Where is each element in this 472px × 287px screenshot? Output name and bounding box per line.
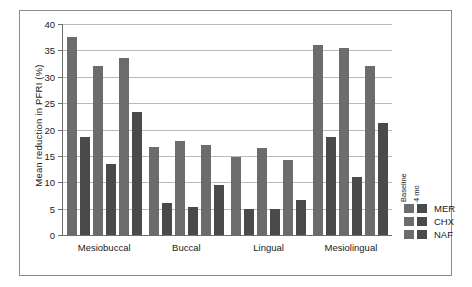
bar bbox=[67, 37, 77, 235]
y-tick-mark bbox=[58, 235, 63, 236]
x-axis-category-label: Mesiolingual bbox=[324, 242, 377, 253]
bar bbox=[93, 66, 103, 235]
plot-area: 0510152025303540MesiobuccalBuccalLingual… bbox=[62, 24, 392, 236]
bar-group: Mesiolingual bbox=[310, 24, 392, 235]
y-tick-label: 35 bbox=[44, 45, 55, 56]
legend-column-headers: Baseline 4 mo bbox=[404, 160, 466, 202]
bar bbox=[326, 137, 336, 235]
legend-swatch-baseline bbox=[404, 204, 414, 213]
legend-swatch-four-mo bbox=[417, 217, 427, 226]
y-tick-label: 10 bbox=[44, 177, 55, 188]
bar bbox=[175, 141, 185, 235]
bar-group: Mesiobuccal bbox=[63, 24, 145, 235]
legend-swatch-four-mo bbox=[417, 230, 427, 239]
bar bbox=[201, 145, 211, 235]
bar bbox=[257, 148, 267, 235]
bar bbox=[244, 209, 254, 235]
legend-label: NAF bbox=[434, 229, 453, 240]
x-axis-category-label: Buccal bbox=[172, 242, 201, 253]
y-tick-label: 30 bbox=[44, 71, 55, 82]
bar bbox=[149, 147, 159, 235]
bar bbox=[378, 123, 388, 235]
bar bbox=[231, 157, 241, 235]
bar bbox=[313, 45, 323, 235]
y-axis-title: Mean reduction in PFRI (%) bbox=[33, 26, 44, 226]
bar bbox=[214, 185, 224, 235]
bar bbox=[283, 160, 293, 235]
bar bbox=[188, 207, 198, 235]
y-tick-label: 25 bbox=[44, 98, 55, 109]
bar-group: Buccal bbox=[145, 24, 227, 235]
x-axis-category-label: Lingual bbox=[253, 242, 284, 253]
bar bbox=[352, 177, 362, 235]
bar bbox=[119, 58, 129, 235]
bar bbox=[339, 48, 349, 235]
bar bbox=[106, 164, 116, 235]
bar bbox=[296, 200, 306, 235]
y-tick-label: 40 bbox=[44, 19, 55, 30]
y-tick-label: 15 bbox=[44, 150, 55, 161]
legend-header-baseline: Baseline bbox=[399, 173, 408, 202]
bar bbox=[365, 66, 375, 235]
bar bbox=[162, 203, 172, 235]
legend-header-four-mo: 4 mo bbox=[412, 185, 421, 202]
y-tick-label: 5 bbox=[50, 203, 55, 214]
bar bbox=[270, 209, 280, 235]
legend-rows: MERCHXNAF bbox=[404, 202, 466, 241]
bar bbox=[132, 112, 142, 235]
x-axis-category-label: Mesiobuccal bbox=[78, 242, 131, 253]
legend-label: MER bbox=[434, 203, 455, 214]
legend-row: NAF bbox=[404, 228, 466, 241]
chart-legend: Baseline 4 mo MERCHXNAF bbox=[404, 160, 466, 241]
legend-label: CHX bbox=[434, 216, 454, 227]
chart-figure: Mean reduction in PFRI (%) 0510152025303… bbox=[0, 0, 472, 287]
y-tick-label: 20 bbox=[44, 124, 55, 135]
bar-group: Lingual bbox=[228, 24, 310, 235]
y-tick-label: 0 bbox=[50, 230, 55, 241]
legend-swatch-baseline bbox=[404, 217, 414, 226]
bar bbox=[80, 137, 90, 235]
legend-row: MER bbox=[404, 202, 466, 215]
legend-row: CHX bbox=[404, 215, 466, 228]
legend-swatch-baseline bbox=[404, 230, 414, 239]
legend-swatch-four-mo bbox=[417, 204, 427, 213]
